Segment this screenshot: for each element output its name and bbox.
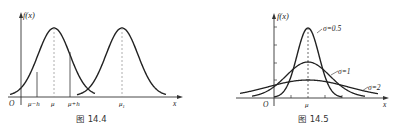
- tick-label-mu-minus-h: μ−h: [28, 100, 40, 108]
- y-axis-ticks: [274, 27, 277, 80]
- normal-curve-mu: [10, 28, 95, 94]
- origin-label: O: [263, 100, 269, 109]
- tick-label-mu1: μ1: [119, 100, 125, 109]
- figure-caption-14-4: 图 14.4: [76, 114, 107, 124]
- figure-canvas: f(x) O μ−h μ μ+h μ1 x 图 14.4: [0, 0, 394, 134]
- curve-sigma-2: [240, 80, 378, 94]
- y-axis-label: f(x): [23, 10, 35, 20]
- x-axis-label: x: [172, 99, 177, 108]
- tick-label-mu: μ: [51, 100, 55, 108]
- legend-sigma-1: σ=1: [338, 67, 351, 76]
- normal-curve-mu1: [77, 28, 166, 95]
- figure-14-5: f(x) σ=0.5 σ=1 σ=2 O μ x 图 14.5: [236, 11, 389, 124]
- leader-sigma-0-5: [317, 29, 322, 33]
- figure-caption-14-5: 图 14.5: [298, 114, 329, 124]
- legend-sigma-0-5: σ=0.5: [323, 24, 341, 33]
- tick-label-mu-plus-h: μ+h: [68, 100, 80, 108]
- y-axis-label: f(x): [277, 11, 289, 21]
- origin-label: O: [9, 99, 15, 108]
- y-axis-arrow-icon: [272, 13, 276, 19]
- figure-14-4: f(x) O μ−h μ μ+h μ1 x 图 14.4: [8, 10, 183, 124]
- x-axis-label: x: [382, 100, 387, 109]
- x-axis-arrow-icon: [177, 95, 183, 99]
- legend-sigma-2: σ=2: [368, 83, 381, 92]
- tick-label-mu: μ: [305, 101, 309, 109]
- leader-sigma-1: [331, 71, 338, 75]
